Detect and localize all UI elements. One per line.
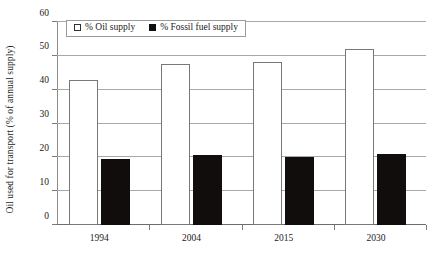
y-tick-40	[52, 89, 57, 90]
x-tick-label-2015: 2015	[274, 233, 293, 243]
x-tick-label-1994: 1994	[90, 233, 109, 243]
y-tick-label: 60	[40, 8, 50, 18]
y-tick-label: 10	[40, 177, 50, 187]
y-tick-60	[52, 21, 57, 22]
x-tick-label-2030: 2030	[366, 233, 385, 243]
y-tick-label: 50	[40, 41, 50, 51]
bar-2015-fossil-fuel-supply	[285, 157, 314, 225]
chart-legend: % Oil supply% Fossil fuel supply	[66, 20, 246, 37]
x-tick	[426, 225, 427, 230]
x-tick	[334, 225, 335, 230]
y-tick-label: 40	[40, 75, 50, 85]
open-square-icon	[74, 24, 81, 31]
bar-2030-oil-supply	[345, 49, 374, 225]
y-tick-30	[52, 123, 57, 124]
plot-area: 0102030405060 1994200420152030	[57, 22, 426, 225]
y-tick-label: 0	[44, 211, 49, 221]
bar-chart: Oil used for transport (% of annual supp…	[0, 0, 433, 259]
legend-label: % Fossil fuel supply	[160, 23, 238, 33]
bar-2004-fossil-fuel-supply	[193, 155, 222, 225]
y-tick-20	[52, 156, 57, 157]
bar-1994-fossil-fuel-supply	[101, 159, 130, 225]
y-tick-label: 20	[40, 143, 50, 153]
y-tick-label: 30	[40, 109, 50, 119]
x-tick-label-2004: 2004	[182, 233, 201, 243]
bar-1994-oil-supply	[69, 80, 98, 225]
filled-square-icon	[149, 24, 156, 31]
bar-2030-fossil-fuel-supply	[377, 154, 406, 225]
y-axis-title: Oil used for transport (% of annual supp…	[0, 0, 20, 259]
y-tick-10	[52, 190, 57, 191]
y-tick-0	[52, 224, 57, 225]
bar-2015-oil-supply	[253, 62, 282, 225]
x-tick	[242, 225, 243, 230]
legend-item-fossil-fuel-supply: % Fossil fuel supply	[149, 23, 238, 33]
legend-item-oil-supply: % Oil supply	[74, 23, 135, 33]
x-tick	[149, 225, 150, 230]
legend-label: % Oil supply	[85, 23, 135, 33]
y-tick-50	[52, 55, 57, 56]
bar-2004-oil-supply	[161, 64, 190, 225]
